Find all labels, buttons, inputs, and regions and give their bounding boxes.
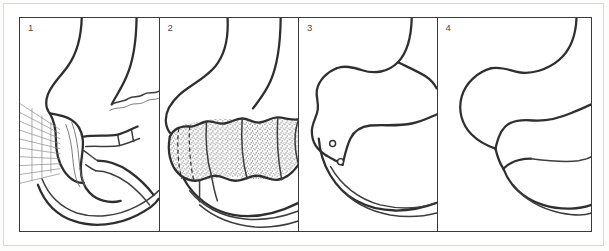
suture-knot-lower — [338, 159, 344, 165]
panel-2-stippled-segment — [168, 117, 298, 201]
panel-2-number: 2 — [168, 23, 173, 33]
panel-3-artwork — [299, 18, 437, 231]
illustration-plate: 1 — [19, 17, 592, 232]
panel-3-anatomy — [312, 18, 437, 216]
panel-1-artwork — [20, 18, 159, 231]
panel-1-anatomy — [38, 18, 159, 225]
panel-2: 2 — [159, 18, 299, 231]
suture-knot-upper — [330, 141, 336, 147]
panel-1-number: 1 — [28, 23, 33, 33]
panel-2-artwork — [160, 18, 299, 231]
panel-1: 1 — [20, 18, 159, 231]
panel-4: 4 — [437, 18, 591, 231]
panel-3: 3 — [298, 18, 437, 231]
figure-root: 1 — [0, 0, 609, 251]
panel-4-artwork — [438, 18, 591, 231]
panel-4-number: 4 — [446, 23, 451, 33]
panel-3-number: 3 — [307, 23, 312, 33]
panel-4-anatomy — [460, 18, 591, 215]
panel-strip: 1 — [20, 18, 591, 231]
